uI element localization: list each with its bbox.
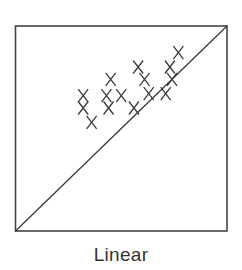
x-marker (87, 116, 97, 129)
chart-caption: Linear (0, 244, 242, 266)
x-marker (78, 89, 88, 102)
x-marker (78, 102, 88, 115)
x-marker (140, 73, 150, 86)
x-marker (167, 73, 177, 86)
x-marker (129, 102, 139, 115)
x-marker (106, 73, 116, 86)
x-marker (133, 61, 143, 74)
scatter-plot (0, 0, 242, 240)
x-marker (116, 89, 126, 102)
x-marker (165, 61, 175, 74)
data-markers (78, 46, 183, 129)
x-marker (161, 87, 171, 100)
x-marker (144, 87, 154, 100)
x-marker (101, 89, 111, 102)
x-marker (104, 102, 114, 115)
identity-line (16, 26, 228, 231)
x-marker (173, 46, 183, 59)
